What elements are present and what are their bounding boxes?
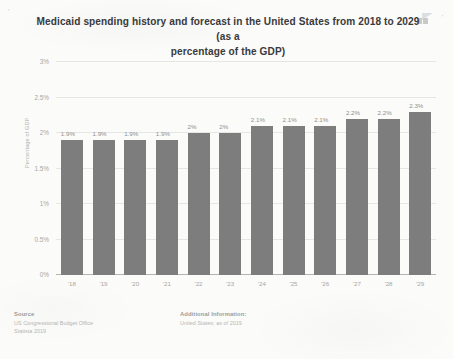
bar-slot: 2.1%'26 bbox=[309, 62, 341, 275]
y-axis-tick-label: 3% bbox=[40, 58, 49, 65]
x-axis-tick-label: '18 bbox=[68, 280, 76, 287]
bar-slot: 2.1%'25 bbox=[278, 62, 310, 275]
page-corner-mark-right: ' bbox=[442, 14, 443, 21]
bar-value-label: 2.1% bbox=[251, 116, 265, 123]
bar-slot: 1.9%'20 bbox=[119, 62, 151, 275]
x-axis-tick-label: '19 bbox=[99, 280, 107, 287]
bar-value-label: 1.9% bbox=[61, 130, 75, 137]
bar[interactable]: 2.2% bbox=[346, 119, 368, 275]
bar[interactable]: 2.1% bbox=[251, 126, 273, 275]
source-block: Source US Congressional Budget Office St… bbox=[14, 311, 93, 334]
x-axis-tick-label: '28 bbox=[385, 280, 393, 287]
additional-info-block: Additional Information: United States; a… bbox=[180, 311, 246, 326]
x-axis-tick-label: '22 bbox=[194, 280, 202, 287]
bar-value-label: 1.9% bbox=[93, 130, 107, 137]
bar-slot: 1.9%'18 bbox=[56, 62, 88, 275]
bar-value-label: 2.2% bbox=[378, 109, 392, 116]
bar-value-label: 1.9% bbox=[156, 130, 170, 137]
source-line: US Congressional Budget Office bbox=[14, 320, 93, 326]
bar-slot: 2.2%'28 bbox=[373, 62, 405, 275]
bar-value-label: 2% bbox=[219, 123, 228, 130]
bar-value-label: 1.9% bbox=[124, 130, 138, 137]
additional-info-line: United States; as of 2019 bbox=[180, 320, 246, 326]
bar[interactable]: 2.1% bbox=[283, 126, 305, 275]
chart-page: ' ' Medicaid spending history and foreca… bbox=[0, 0, 453, 359]
x-axis-tick-label: '27 bbox=[353, 280, 361, 287]
bar-slot: 1.9%'21 bbox=[151, 62, 183, 275]
chart-title-line-1: Medicaid spending history and forecast i… bbox=[28, 14, 428, 44]
bar-value-label: 2% bbox=[188, 123, 197, 130]
bar[interactable]: 2% bbox=[188, 133, 210, 275]
bar-slot: 2%'22 bbox=[183, 62, 215, 275]
bar[interactable]: 1.9% bbox=[93, 140, 115, 275]
bar-value-label: 2.3% bbox=[409, 102, 423, 109]
bar-slot: 2%'23 bbox=[214, 62, 246, 275]
x-axis-tick-label: '24 bbox=[258, 280, 266, 287]
plot-area: 0%0.5%1%1.5%2%2.5%3% 1.9%'181.9%'191.9%'… bbox=[56, 62, 436, 275]
chart-footer: Source US Congressional Budget Office St… bbox=[14, 311, 439, 345]
x-axis-tick-label: '21 bbox=[163, 280, 171, 287]
bar[interactable]: 2% bbox=[219, 133, 241, 275]
x-axis-tick-label: '20 bbox=[131, 280, 139, 287]
y-axis-tick-label: 2% bbox=[40, 129, 49, 136]
bar-slot: 2.2%'27 bbox=[341, 62, 373, 275]
y-axis-tick-label: 0% bbox=[40, 271, 49, 278]
page-corner-mark-left: ' bbox=[8, 8, 9, 15]
bar-slot: 1.9%'19 bbox=[88, 62, 120, 275]
y-axis-tick-label: 0.5% bbox=[34, 235, 49, 242]
y-axis-tick-label: 1.5% bbox=[34, 164, 49, 171]
x-axis-tick-label: '25 bbox=[289, 280, 297, 287]
x-axis-tick-label: '23 bbox=[226, 280, 234, 287]
chart-title-line-2: percentage of the GDP) bbox=[28, 44, 428, 59]
additional-info-heading: Additional Information: bbox=[180, 311, 246, 317]
bar[interactable]: 1.9% bbox=[124, 140, 146, 275]
x-axis-tick-label: '29 bbox=[416, 280, 424, 287]
source-attribution: Statista 2019 bbox=[14, 328, 93, 334]
bar[interactable]: 2.2% bbox=[378, 119, 400, 275]
y-axis-tick-label: 1% bbox=[40, 200, 49, 207]
y-axis-label: Percentage of GDP bbox=[24, 118, 30, 168]
y-axis-tick-label: 2.5% bbox=[34, 93, 49, 100]
bar-series: 1.9%'181.9%'191.9%'201.9%'212%'222%'232.… bbox=[56, 62, 436, 275]
chart-title: Medicaid spending history and forecast i… bbox=[28, 14, 428, 59]
bar-value-label: 2.2% bbox=[346, 109, 360, 116]
bar-value-label: 2.1% bbox=[283, 116, 297, 123]
bar-slot: 2.3%'29 bbox=[404, 62, 436, 275]
bar[interactable]: 2.3% bbox=[409, 112, 431, 275]
x-axis-tick-label: '26 bbox=[321, 280, 329, 287]
bar[interactable]: 1.9% bbox=[61, 140, 83, 275]
bar-value-label: 2.1% bbox=[314, 116, 328, 123]
bar[interactable]: 1.9% bbox=[156, 140, 178, 275]
bar-slot: 2.1%'24 bbox=[246, 62, 278, 275]
bar[interactable]: 2.1% bbox=[314, 126, 336, 275]
source-heading: Source bbox=[14, 311, 93, 317]
